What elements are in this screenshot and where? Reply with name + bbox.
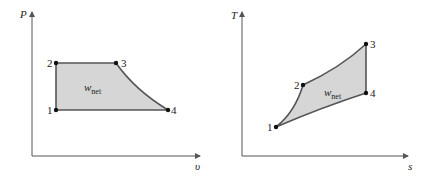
ts-label-4: 4 (370, 87, 376, 99)
pv-label-1: 1 (47, 104, 53, 116)
pv-label-4: 4 (171, 104, 177, 116)
pv-work-area (56, 63, 168, 110)
pv-label-2: 2 (47, 57, 53, 69)
pv-diagram: P υ 1 2 3 4 wnet (19, 8, 200, 172)
ts-work-area (276, 44, 366, 127)
ts-diagram: T s 1 2 3 4 wnet (231, 9, 412, 172)
pv-label-3: 3 (121, 57, 127, 69)
pv-point-2 (54, 61, 58, 65)
ts-label-3: 3 (370, 38, 376, 50)
ts-y-label: T (231, 9, 238, 21)
ts-point-1 (274, 125, 278, 129)
ts-point-4 (364, 91, 368, 95)
diagram-canvas: P υ 1 2 3 4 wnet T s 1 2 3 4 wnet (0, 0, 426, 183)
pv-point-3 (114, 61, 118, 65)
pv-point-4 (166, 108, 170, 112)
ts-point-2 (301, 83, 305, 87)
ts-point-3 (364, 42, 368, 46)
ts-label-2: 2 (294, 79, 300, 91)
ts-label-1: 1 (267, 121, 273, 133)
pv-y-label: P (19, 8, 27, 20)
ts-x-label: s (408, 160, 412, 172)
pv-point-1 (54, 108, 58, 112)
pv-x-label: υ (195, 160, 200, 172)
